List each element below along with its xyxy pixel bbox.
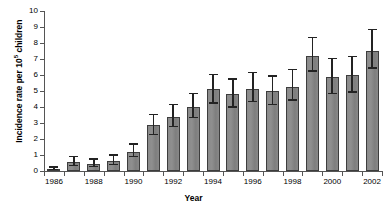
error-bar-line — [192, 94, 194, 118]
x-tick-label: 1994 — [193, 178, 233, 186]
x-tick-label: 1998 — [273, 178, 313, 186]
error-bar-line — [351, 57, 353, 92]
error-bar-cap-upper — [89, 158, 98, 159]
x-tick-mark — [243, 172, 244, 176]
x-tick-mark — [203, 172, 204, 176]
y-tick-label: 5 — [18, 87, 38, 95]
error-bar-cap-lower — [228, 106, 237, 107]
error-bar-cap-lower — [248, 101, 257, 102]
x-tick-label: 1986 — [34, 178, 74, 186]
error-bar-line — [172, 105, 174, 127]
x-tick-mark — [104, 172, 105, 176]
error-bar-line — [331, 59, 333, 94]
x-tick-mark — [362, 172, 363, 176]
bar-chart-figure: Incidence rate per 105 children 01234567… — [0, 0, 387, 213]
error-bar-cap-lower — [149, 134, 158, 135]
error-bar-line — [312, 38, 314, 72]
error-bar-cap-upper — [149, 114, 158, 115]
error-bar-cap-upper — [169, 104, 178, 105]
bar-group — [306, 11, 319, 171]
x-tick-mark — [163, 172, 164, 176]
error-bar-cap-upper — [228, 78, 237, 79]
error-bar-cap-upper — [49, 166, 58, 167]
error-bar-cap-lower — [49, 169, 58, 170]
error-bar-cap-lower — [69, 165, 78, 166]
error-bar-line — [212, 75, 214, 104]
x-tick-mark — [382, 172, 383, 176]
x-tick-mark — [302, 172, 303, 176]
bar — [366, 51, 379, 171]
x-axis-line — [44, 171, 383, 172]
y-tick-label: 7 — [18, 55, 38, 63]
bar-group — [286, 11, 299, 171]
error-bar-cap-lower — [268, 104, 277, 105]
error-bar-cap-lower — [328, 93, 337, 94]
x-tick-mark — [84, 172, 85, 176]
bar-group — [226, 11, 239, 171]
x-tick-mark — [124, 172, 125, 176]
x-tick-mark — [143, 172, 144, 176]
error-bar-cap-lower — [189, 117, 198, 118]
x-tick-mark — [183, 172, 184, 176]
error-bar-line — [252, 73, 254, 102]
error-bar-cap-upper — [308, 37, 317, 38]
x-tick-label: 1992 — [153, 178, 193, 186]
plot-area — [44, 11, 382, 171]
error-bar-cap-upper — [129, 143, 138, 144]
error-bar-line — [272, 77, 274, 106]
error-bar-cap-upper — [209, 74, 218, 75]
x-tick-mark — [342, 172, 343, 176]
error-bar-cap-lower — [169, 126, 178, 127]
x-tick-mark — [44, 172, 45, 176]
bar-group — [47, 11, 60, 171]
error-bar-cap-lower — [288, 99, 297, 100]
x-tick-mark — [322, 172, 323, 176]
x-tick-label: 1996 — [233, 178, 273, 186]
bar-group — [366, 11, 379, 171]
bar-group — [127, 11, 140, 171]
y-tick-label: 2 — [18, 135, 38, 143]
y-tick-label: 4 — [18, 103, 38, 111]
error-bar-cap-upper — [189, 93, 198, 94]
error-bar-cap-lower — [308, 70, 317, 71]
x-tick-label: 1990 — [113, 178, 153, 186]
bar-group — [147, 11, 160, 171]
error-bar-cap-lower — [209, 102, 218, 103]
y-tick-label: 3 — [18, 119, 38, 127]
y-tick-label: 1 — [18, 151, 38, 159]
x-tick-mark — [64, 172, 65, 176]
x-axis-title: Year — [0, 193, 387, 203]
y-tick-label: 0 — [18, 167, 38, 175]
error-bar-cap-upper — [288, 69, 297, 70]
x-tick-label: 2000 — [312, 178, 352, 186]
x-tick-mark — [263, 172, 264, 176]
x-tick-label: 2002 — [352, 178, 387, 186]
x-tick-mark — [283, 172, 284, 176]
error-bar-cap-lower — [89, 166, 98, 167]
bar-group — [207, 11, 220, 171]
bar-group — [266, 11, 279, 171]
error-bar-cap-lower — [129, 156, 138, 157]
x-tick-mark — [223, 172, 224, 176]
error-bar-cap-upper — [69, 156, 78, 157]
error-bar-cap-upper — [268, 75, 277, 76]
bar-group — [167, 11, 180, 171]
error-bar-line — [153, 115, 155, 135]
error-bar-line — [292, 70, 294, 100]
error-bar-cap-upper — [348, 56, 357, 57]
bar-group — [246, 11, 259, 171]
y-tick-label: 8 — [18, 39, 38, 47]
error-bar-cap-upper — [368, 29, 377, 30]
y-tick-label: 6 — [18, 71, 38, 79]
error-bar-cap-upper — [328, 58, 337, 59]
error-bar-cap-lower — [348, 91, 357, 92]
x-tick-label: 1988 — [74, 178, 114, 186]
error-bar-cap-lower — [368, 67, 377, 68]
bar-group — [346, 11, 359, 171]
error-bar-cap-lower — [109, 164, 118, 165]
bar — [306, 56, 319, 171]
error-bar-cap-upper — [248, 72, 257, 73]
error-bar-cap-upper — [109, 154, 118, 155]
bar-group — [187, 11, 200, 171]
error-bar-line — [232, 80, 234, 108]
